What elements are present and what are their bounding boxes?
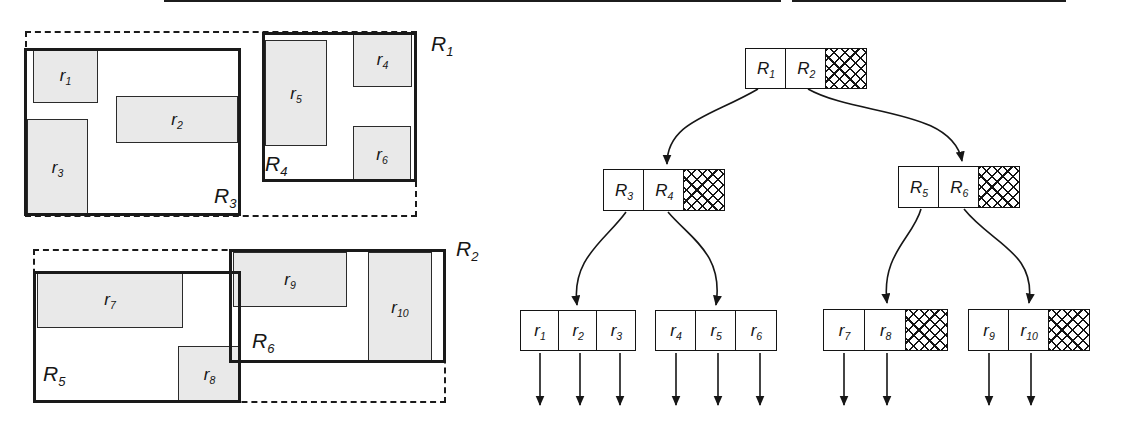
leaf-r7r8-entry-r8-label-sub: 8 xyxy=(886,330,892,342)
leaf-r4r5r6-entry-r6-label-sub: 6 xyxy=(756,330,762,342)
leaf-r9r10-entry-r9-label: r9 xyxy=(983,322,995,339)
leaf-r1r2r3-entry-r3: r3 xyxy=(596,310,636,351)
leaf-r9r10-entry-r10-label-sub: 10 xyxy=(1026,330,1038,342)
leaf-r1r2r3-entry-r2-label-sub: 2 xyxy=(578,330,584,342)
node-root-entry-R2-label: R2 xyxy=(797,60,815,77)
leaf-r7r8: r7r8 xyxy=(823,309,948,351)
node-r5r6-entry-R6-label: R6 xyxy=(950,179,968,196)
leaf-r4r5r6: r4r5r6 xyxy=(655,310,777,351)
rtree-figure: R1R2r1r2r3r4r5r6r7r8r9r10R3R4R5R6 R1R2R3… xyxy=(0,0,1122,432)
node-r3r4-empty-slot xyxy=(683,169,725,211)
node-r3r4-entry-R4-label-base: R xyxy=(655,181,667,200)
node-r5r6-entry-R6-label-base: R xyxy=(950,178,962,197)
node-root-empty-slot xyxy=(825,48,867,89)
node-root-entry-R2: R2 xyxy=(785,48,827,89)
leaf-r9r10: r9r10 xyxy=(968,309,1090,351)
leaf-r7r8-entry-r7-label-sub: 7 xyxy=(844,330,850,342)
leaf-r1r2r3-entry-r3-label: r3 xyxy=(611,322,623,339)
node-r5r6-entry-R5: R5 xyxy=(898,166,940,208)
leaf-r4r5r6-entry-r4-label-sub: 4 xyxy=(676,330,682,342)
leaf-r1r2r3-entry-r2-label: r2 xyxy=(572,322,584,339)
leaf-r1r2r3-entry-r3-label-sub: 3 xyxy=(616,330,622,342)
node-r3r4-entry-R4-label-sub: 4 xyxy=(667,190,673,202)
leaf-r9r10-entry-r9: r9 xyxy=(968,309,1010,351)
leaf-r9r10-entry-r10: r10 xyxy=(1008,309,1050,351)
leaf-r1r2r3-entry-r1-label-sub: 1 xyxy=(540,330,546,342)
node-root-entry-R1: R1 xyxy=(745,48,787,89)
leaf-r7r8-empty-slot xyxy=(905,309,948,351)
rtree-diagram: R1R2R3R4R5R6r1r2r3r4r5r6r7r8r9r10 xyxy=(0,0,1122,432)
leaf-r1r2r3-entry-r1-label: r1 xyxy=(534,322,546,339)
leaf-r4r5r6-entry-r6-label: r6 xyxy=(751,322,763,339)
node-r3r4-entry-R4-label: R4 xyxy=(655,182,673,199)
node-r5r6-entry-R5-label: R5 xyxy=(910,179,928,196)
leaf-r9r10-empty-slot xyxy=(1048,309,1090,351)
node-r5r6: R5R6 xyxy=(898,166,1020,208)
node-r3r4: R3R4 xyxy=(603,169,725,211)
node-r5r6-entry-R6: R6 xyxy=(938,166,980,208)
node-r5r6-entry-R5-label-sub: 5 xyxy=(922,187,928,199)
leaf-r4r5r6-entry-r5-label: r5 xyxy=(710,322,722,339)
leaf-r7r8-entry-r7: r7 xyxy=(823,309,866,351)
node-root-entry-R2-label-sub: 2 xyxy=(809,68,815,80)
leaf-r7r8-entry-r7-label: r7 xyxy=(839,322,851,339)
node-r3r4-entry-R3: R3 xyxy=(603,169,645,211)
leaf-r4r5r6-entry-r4: r4 xyxy=(655,310,697,351)
node-root-entry-R1-label-sub: 1 xyxy=(769,68,775,80)
leaf-r1r2r3-entry-r1: r1 xyxy=(520,310,560,351)
node-root-entry-R1-label-base: R xyxy=(757,59,769,78)
leaf-r1r2r3-entry-r2: r2 xyxy=(558,310,598,351)
node-r3r4-entry-R3-label-sub: 3 xyxy=(627,190,633,202)
node-r3r4-entry-R4: R4 xyxy=(643,169,685,211)
leaf-r1r2r3: r1r2r3 xyxy=(520,310,636,351)
node-root: R1R2 xyxy=(745,48,867,89)
node-root-entry-R1-label: R1 xyxy=(757,60,775,77)
leaf-r7r8-entry-r8-label: r8 xyxy=(880,322,892,339)
node-r5r6-entry-R6-label-sub: 6 xyxy=(962,187,968,199)
leaf-r4r5r6-entry-r4-label: r4 xyxy=(670,322,682,339)
leaf-r4r5r6-entry-r5: r5 xyxy=(695,310,737,351)
leaf-r9r10-entry-r10-label: r10 xyxy=(1021,322,1038,339)
leaf-r4r5r6-entry-r5-label-sub: 5 xyxy=(716,330,722,342)
node-r3r4-entry-R3-label-base: R xyxy=(615,181,627,200)
node-root-entry-R2-label-base: R xyxy=(797,59,809,78)
node-r5r6-empty-slot xyxy=(978,166,1020,208)
node-r3r4-entry-R3-label: R3 xyxy=(615,182,633,199)
leaf-r9r10-entry-r9-label-sub: 9 xyxy=(989,330,995,342)
node-r5r6-entry-R5-label-base: R xyxy=(910,178,922,197)
leaf-r4r5r6-entry-r6: r6 xyxy=(735,310,777,351)
leaf-r7r8-entry-r8: r8 xyxy=(864,309,907,351)
